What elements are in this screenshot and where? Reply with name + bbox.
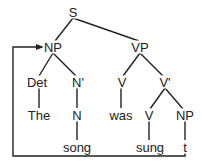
edge-vbar-v xyxy=(150,88,165,109)
node-det: Det xyxy=(26,76,48,89)
edge-np-nbar xyxy=(53,53,76,76)
node-np: NP xyxy=(43,41,63,54)
node-v-lower: V xyxy=(144,109,155,122)
edge-vbar-np xyxy=(165,88,183,109)
node-s: S xyxy=(68,6,79,19)
node-n: N xyxy=(71,109,82,122)
edge-np-det xyxy=(39,53,53,76)
node-nbar: N' xyxy=(71,76,85,89)
edge-vp-vbar xyxy=(140,53,163,76)
node-v: V xyxy=(117,76,128,89)
word-song: song xyxy=(62,141,92,154)
edge-s-np xyxy=(55,18,73,41)
edge-vp-v xyxy=(123,53,140,76)
node-np-lower: NP xyxy=(175,109,195,122)
edge-s-vp xyxy=(73,18,139,41)
word-the: The xyxy=(27,109,51,122)
node-vbar: V' xyxy=(158,76,171,89)
trace-t: t xyxy=(182,141,188,154)
word-was: was xyxy=(108,109,133,122)
word-sung: sung xyxy=(135,141,165,154)
node-vp: VP xyxy=(130,41,149,54)
